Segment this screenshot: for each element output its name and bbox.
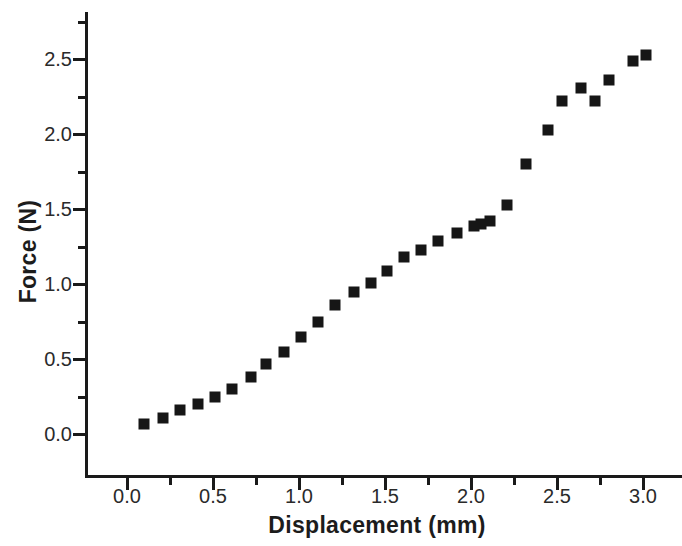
y-tick-label: 0.0 (10, 423, 72, 446)
data-point-marker (627, 55, 638, 66)
data-point-marker (452, 228, 463, 239)
data-point-marker (366, 277, 377, 288)
y-axis-major-tick (73, 208, 85, 211)
y-tick-label: 1.0 (10, 273, 72, 296)
x-axis-minor-tick (513, 478, 516, 485)
data-point-marker (576, 82, 587, 93)
y-axis-minor-tick (78, 96, 85, 99)
x-axis-minor-tick (599, 478, 602, 485)
data-point-marker (226, 384, 237, 395)
data-point-marker (261, 358, 272, 369)
data-point-marker (192, 399, 203, 410)
data-point-marker (433, 235, 444, 246)
data-point-marker (502, 199, 513, 210)
data-point-marker (521, 159, 532, 170)
data-point-marker (158, 412, 169, 423)
y-tick-label: 2.0 (10, 123, 72, 146)
y-tick-label: 1.5 (10, 198, 72, 221)
x-tick-label: 0.0 (97, 485, 157, 508)
data-point-marker (245, 372, 256, 383)
y-axis-major-tick (73, 133, 85, 136)
data-point-marker (589, 96, 600, 107)
x-tick-label: 2.5 (527, 485, 587, 508)
x-axis-minor-tick (169, 478, 172, 485)
y-axis-line (85, 12, 88, 475)
y-axis-major-tick (73, 58, 85, 61)
y-axis-major-tick (73, 433, 85, 436)
data-point-marker (603, 75, 614, 86)
y-axis-minor-tick (78, 21, 85, 24)
y-axis-minor-tick (78, 396, 85, 399)
y-axis-minor-tick (78, 321, 85, 324)
x-axis-minor-tick (427, 478, 430, 485)
x-tick-label: 0.5 (183, 485, 243, 508)
data-point-marker (349, 286, 360, 297)
y-tick-label: 2.5 (10, 48, 72, 71)
force-displacement-chart: Force (N) Displacement (mm) 0.00.51.01.5… (0, 0, 682, 546)
data-point-marker (175, 405, 186, 416)
data-point-marker (416, 244, 427, 255)
y-axis-minor-tick (78, 246, 85, 249)
y-axis-minor-tick (78, 171, 85, 174)
data-point-marker (543, 124, 554, 135)
data-point-marker (278, 346, 289, 357)
data-point-marker (330, 300, 341, 311)
x-axis-minor-tick (255, 478, 258, 485)
data-point-marker (381, 265, 392, 276)
x-tick-label: 1.5 (355, 485, 415, 508)
x-tick-label: 1.0 (269, 485, 329, 508)
x-axis-minor-tick (341, 478, 344, 485)
data-point-marker (139, 418, 150, 429)
data-point-marker (641, 49, 652, 60)
data-point-marker (312, 316, 323, 327)
data-point-marker (398, 252, 409, 263)
data-point-marker (484, 216, 495, 227)
data-point-marker (295, 331, 306, 342)
x-tick-label: 3.0 (613, 485, 673, 508)
y-axis-major-tick (73, 358, 85, 361)
data-point-marker (209, 391, 220, 402)
data-point-marker (557, 96, 568, 107)
x-tick-label: 2.0 (441, 485, 501, 508)
plot-area: 0.00.51.01.52.02.50.00.51.01.52.02.53.0 (0, 0, 682, 546)
y-tick-label: 0.5 (10, 348, 72, 371)
y-axis-major-tick (73, 283, 85, 286)
